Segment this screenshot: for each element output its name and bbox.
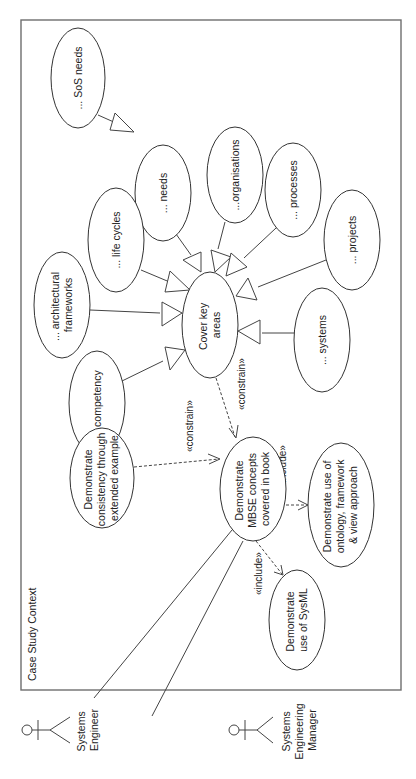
use-case-diagram: Case Study Context «constr <box>0 0 416 779</box>
actor-association-lines <box>94 530 243 716</box>
generalisation-arrowhead <box>238 320 260 344</box>
generalisation-arrowhead <box>236 278 257 300</box>
svg-text:... processes: ... processes <box>287 160 299 220</box>
svg-text:... projects: ... projects <box>346 216 358 264</box>
use-case-sos-needs[interactable]: ... SoS needs <box>51 28 105 128</box>
svg-text:...competency: ...competency <box>91 370 103 436</box>
use-case-demonstrate-consistency[interactable]: Demonstrate consistency through extended… <box>70 428 134 528</box>
stick-figure-icon <box>22 717 70 743</box>
use-case-demonstrate-sysml[interactable]: Demonstrate use of SysML <box>269 570 325 670</box>
use-case-systems[interactable]: ... systems <box>294 288 350 392</box>
use-case-demonstrate-ontology[interactable]: Demonstrate use of ontology, framework &… <box>308 443 374 567</box>
svg-text:Demonstrate MBSE concept: Demonstrate MBSE concepts covered in boo… <box>233 450 271 528</box>
svg-text:...organisations: ...organisations <box>229 139 241 210</box>
use-case-life-cycles[interactable]: ... life cycles <box>88 188 144 292</box>
stick-figure-icon <box>229 717 273 743</box>
svg-text:Demonstrate use of ontol: Demonstrate use of ontology, framework &… <box>321 457 359 554</box>
use-case-architectural-frameworks[interactable]: ... architectural frameworks <box>34 252 90 358</box>
svg-text:... needs: ... needs <box>157 173 169 213</box>
constrain-label-top: «constrain» <box>236 358 247 410</box>
use-case-projects[interactable]: ... projects <box>324 190 380 290</box>
svg-text:Systems Engineering: Systems Engineering Manager <box>280 701 318 760</box>
svg-text:... systems: ... systems <box>316 315 328 365</box>
generalisation-arrowhead <box>162 302 182 326</box>
generalisation-arrowhead <box>165 271 190 292</box>
svg-text:Systems Engineer: Systems Engineer <box>75 708 100 751</box>
svg-text:... SoS needs: ... SoS needs <box>72 46 84 109</box>
generalisation-arrowhead <box>183 252 201 272</box>
use-case-organisations[interactable]: ...organisations <box>207 127 263 223</box>
generalisation-arrowhead <box>165 347 185 370</box>
constrain-label-left: «constrain» <box>184 400 195 452</box>
use-case-processes[interactable]: ... processes <box>265 143 321 237</box>
actor-systems-engineering-manager[interactable]: Systems Engineering Manager <box>229 701 318 760</box>
use-case-demonstrate-mbse[interactable]: Demonstrate MBSE concepts covered in boo… <box>220 437 286 541</box>
generalisation-arrowhead <box>110 113 134 132</box>
use-case-cover-key-areas[interactable]: Cover key areas <box>182 272 238 378</box>
svg-text:Demonstrate use of SysML: Demonstrate use of SysML <box>284 588 309 652</box>
include-label-bottom: «include» <box>253 552 264 595</box>
actor-systems-engineer[interactable]: Systems Engineer <box>22 708 100 751</box>
svg-text:... life cycles: ... life cycles <box>110 211 122 268</box>
svg-text:... architectural framew: ... architectural frameworks <box>49 269 74 341</box>
frame-title: Case Study Context <box>26 588 38 681</box>
